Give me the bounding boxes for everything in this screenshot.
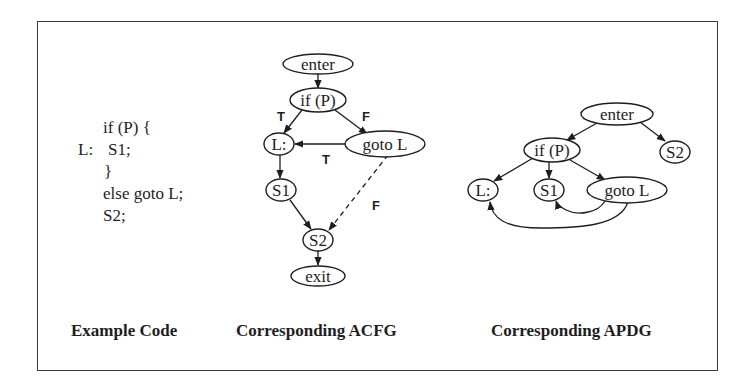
acfg-edge-label-F1: F — [362, 109, 370, 124]
acfg-node-exit: exit — [291, 266, 345, 286]
svg-text:S2: S2 — [309, 231, 327, 250]
apdg-panel: enter if (P) S2 L: S1 goto L Correspondi… — [468, 103, 690, 340]
acfg-panel: enter if (P) L: goto L S1 S2 exit T F T — [236, 54, 425, 340]
acfg-edge-S1-S2 — [290, 200, 311, 229]
svg-text:exit: exit — [305, 267, 331, 286]
code-line-1: if (P) { — [103, 118, 151, 137]
apdg-node-S1: S1 — [534, 179, 564, 201]
svg-text:S1: S1 — [272, 181, 290, 200]
acfg-node-S2: S2 — [303, 229, 333, 251]
svg-text:if (P): if (P) — [300, 91, 335, 110]
caption-acfg: Corresponding ACFG — [236, 321, 397, 340]
svg-text:S2: S2 — [666, 143, 684, 162]
apdg-edge-ifp-L — [494, 158, 533, 181]
apdg-node-if-p: if (P) — [524, 138, 580, 162]
acfg-edge-label-F2: F — [372, 198, 380, 213]
acfg-node-goto-L: goto L — [345, 131, 425, 157]
acfg-node-if-p: if (P) — [290, 88, 346, 112]
example-code-panel: if (P) { L: S1; } else goto L; S2; Examp… — [71, 118, 183, 340]
apdg-node-enter: enter — [581, 103, 653, 125]
svg-text:if (P): if (P) — [534, 141, 569, 160]
acfg-node-enter: enter — [283, 54, 353, 74]
svg-text:S1: S1 — [540, 181, 558, 200]
acfg-edge-ifp-L — [284, 110, 302, 133]
acfg-edge-label-T1: T — [277, 109, 285, 124]
svg-text:enter: enter — [301, 55, 335, 74]
code-line-3: } — [104, 162, 112, 181]
apdg-node-goto-L: goto L — [587, 177, 667, 203]
figure-canvas: if (P) { L: S1; } else goto L; S2; Examp… — [0, 0, 753, 386]
apdg-edge-enter-ifp — [567, 123, 597, 140]
acfg-edge-label-T2: T — [322, 152, 330, 167]
code-line-4: else goto L; — [103, 184, 183, 203]
code-line-5: S2; — [103, 206, 126, 225]
apdg-edge-ifp-goto — [570, 160, 605, 180]
acfg-edge-goto-S2-dashed — [329, 155, 388, 230]
acfg-node-L: L: — [264, 133, 294, 155]
apdg-node-L: L: — [468, 179, 498, 201]
svg-text:L:: L: — [475, 181, 490, 200]
apdg-node-S2: S2 — [660, 141, 690, 163]
acfg-node-S1: S1 — [266, 179, 296, 201]
apdg-edge-goto-S1 — [556, 201, 605, 213]
caption-example-code: Example Code — [71, 321, 178, 340]
svg-text:L:: L: — [271, 135, 286, 154]
svg-text:goto L: goto L — [605, 181, 650, 200]
caption-apdg: Corresponding APDG — [491, 321, 652, 340]
svg-text:enter: enter — [600, 105, 634, 124]
svg-text:goto L: goto L — [363, 135, 408, 154]
code-line-2: S1; — [108, 140, 131, 159]
code-label-L: L: — [78, 140, 93, 159]
apdg-edge-enter-S2 — [640, 122, 665, 141]
